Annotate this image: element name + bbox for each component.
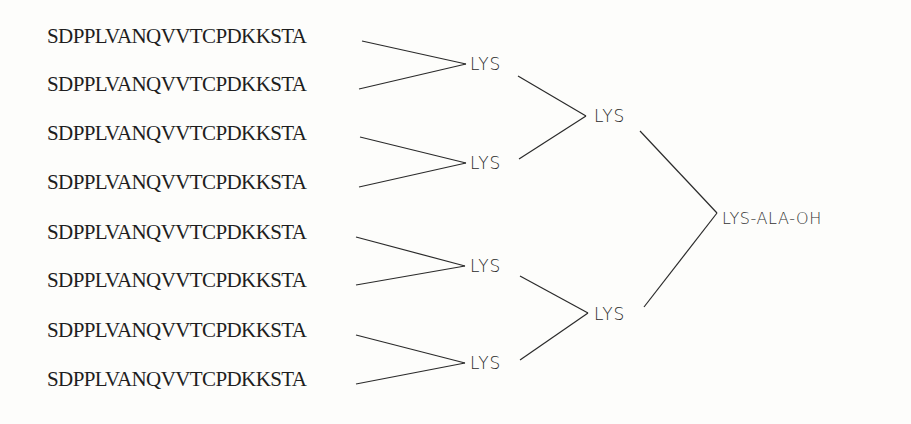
edge-peptide-1 [362,41,466,64]
edge-lys-1b [519,116,586,159]
lys-node-level2-b: LYS [594,304,625,324]
lys-node-level1-d: LYS [470,353,501,373]
peptide-chain-5: SDPPLVANQVVTCPDKKSTA [47,220,306,244]
lys-node-level2-a: LYS [594,106,625,126]
peptide-chain-2: SDPPLVANQVVTCPDKKSTA [47,72,306,96]
edge-lys-1d [520,313,588,360]
peptide-chain-1: SDPPLVANQVVTCPDKKSTA [47,24,306,48]
lys-node-level1-c: LYS [470,256,501,276]
edge-peptide-6 [356,266,465,285]
edge-lys-1a [518,76,586,116]
edge-peptide-4 [359,163,466,187]
peptide-chain-8: SDPPLVANQVVTCPDKKSTA [47,367,306,391]
peptide-chain-7: SDPPLVANQVVTCPDKKSTA [47,318,306,342]
lys-node-level1-a: LYS [470,54,501,74]
mapping-diagram: SDPPLVANQVVTCPDKKSTA SDPPLVANQVVTCPDKKST… [0,0,911,424]
edge-peptide-2 [359,64,466,89]
root-node-lys-ala-oh: LYS-ALA-OH [722,209,822,229]
peptide-chain-3: SDPPLVANQVVTCPDKKSTA [47,121,306,145]
lys-node-level1-b: LYS [470,153,501,173]
edge-peptide-5 [356,237,465,266]
edge-lys-2a [640,131,717,213]
edge-lys-1c [520,276,588,313]
edge-peptide-8 [356,363,465,384]
peptide-chain-6: SDPPLVANQVVTCPDKKSTA [47,268,306,292]
peptide-chain-4: SDPPLVANQVVTCPDKKSTA [47,170,306,194]
edge-peptide-3 [360,137,466,163]
edge-peptide-7 [356,335,465,363]
edge-lys-2b [644,213,717,307]
